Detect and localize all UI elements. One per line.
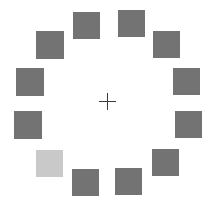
distractor-square <box>118 10 145 37</box>
fixation-cross-vertical <box>107 93 109 110</box>
distractor-square <box>73 12 100 39</box>
distractor-square <box>115 168 142 195</box>
distractor-square <box>72 169 99 196</box>
distractor-square <box>14 111 42 139</box>
fixation-cross-icon <box>99 93 116 110</box>
distractor-square <box>175 111 202 138</box>
target-square <box>36 150 63 177</box>
distractor-square <box>36 31 64 59</box>
visual-search-display <box>0 0 211 208</box>
distractor-square <box>152 149 179 176</box>
distractor-square <box>153 31 180 58</box>
distractor-square <box>16 68 44 96</box>
distractor-square <box>173 68 200 95</box>
